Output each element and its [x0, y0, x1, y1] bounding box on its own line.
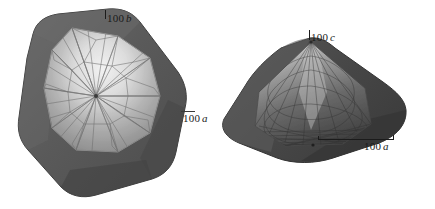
scale-bar-end-tick — [393, 135, 394, 140]
axis-label-a-left-value: 100 — [183, 112, 200, 124]
axis-label-c-value: 100 — [311, 31, 328, 43]
tick-mark-c-axis — [309, 30, 310, 40]
crystal-left-render — [0, 0, 215, 209]
axis-label-b-symbol: b — [124, 12, 132, 24]
figure-canvas: 100b 100a — [0, 0, 435, 209]
crystal-model-left: 100b 100a — [0, 0, 215, 209]
crystal-left-center-node — [94, 94, 98, 98]
tick-mark-b-axis — [105, 10, 106, 19]
axis-label-a-right-value: 100 — [364, 140, 381, 152]
axis-label-a-left-symbol: a — [200, 112, 208, 124]
axis-label-b: 100b — [107, 13, 132, 24]
axis-label-c: 100c — [311, 32, 335, 43]
axis-label-b-value: 100 — [107, 12, 124, 24]
scale-bar-start-tick — [318, 136, 319, 140]
axis-label-a-right-symbol: a — [381, 140, 389, 152]
axis-label-a-right: 100a — [364, 141, 389, 152]
axis-label-c-symbol: c — [328, 31, 335, 43]
axis-label-a-left: 100a — [183, 113, 208, 124]
crystal-right-base-node — [311, 143, 314, 146]
